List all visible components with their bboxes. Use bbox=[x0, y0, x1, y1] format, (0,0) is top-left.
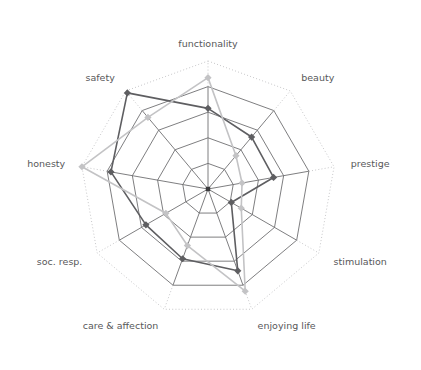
axis-label-beauty: beauty bbox=[301, 72, 334, 83]
axis-label-functionality: functionality bbox=[178, 38, 238, 49]
axis-label-safety: safety bbox=[85, 72, 115, 83]
axis-spoke-stimulation bbox=[208, 189, 297, 240]
data-point-series-dark-prestige bbox=[270, 174, 277, 181]
data-point-series-dark-stimulation bbox=[228, 199, 235, 206]
series-paths-group bbox=[82, 78, 274, 292]
axis-label-enjoying-life: enjoying life bbox=[258, 320, 316, 331]
chart-center-marker bbox=[206, 187, 210, 191]
series-markers-group bbox=[78, 74, 277, 295]
axis-spoke-outer-stimulation bbox=[297, 240, 319, 253]
center-point bbox=[206, 187, 210, 191]
axis-spoke-outer-prestige bbox=[309, 167, 334, 171]
axis-label-stimulation: stimulation bbox=[334, 256, 387, 267]
axis-spoke-outer-beauty bbox=[274, 91, 290, 111]
axis-label-prestige: prestige bbox=[351, 158, 390, 169]
radar-chart-svg: functionalitybeautyprestigestimulationen… bbox=[0, 0, 421, 370]
data-point-series-light-prestige bbox=[238, 179, 245, 186]
axis-spoke-outer-soc-resp- bbox=[97, 240, 119, 253]
axis-label-honesty: honesty bbox=[27, 158, 65, 169]
axis-labels-group: functionalitybeautyprestigestimulationen… bbox=[27, 38, 390, 330]
axis-spoke-outer-care-affection bbox=[164, 285, 173, 309]
axis-spoke-safety bbox=[142, 111, 208, 189]
radar-chart-container: functionalitybeautyprestigestimulationen… bbox=[0, 0, 421, 370]
data-point-series-light-stimulation bbox=[238, 205, 245, 212]
axis-spoke-honesty bbox=[107, 171, 208, 189]
series-polygon-series-light bbox=[82, 78, 245, 292]
axis-label-care-affection: care & affection bbox=[83, 320, 159, 331]
data-point-series-dark-enjoying-life bbox=[234, 267, 241, 274]
axis-label-soc-resp-: soc. resp. bbox=[37, 256, 83, 267]
